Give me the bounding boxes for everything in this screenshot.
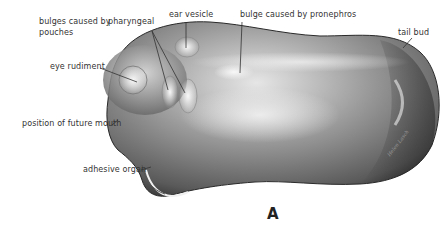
label-tail-bud: tail bud xyxy=(398,28,429,38)
label-future-mouth: position of future mouth xyxy=(22,119,122,129)
eye-rudiment xyxy=(119,66,147,94)
label-pouches: pouches xyxy=(39,28,73,38)
label-pharyngeal: pharyngeal xyxy=(108,17,154,27)
label-ear-vesicle: ear vesicle xyxy=(169,10,213,20)
pharyngeal-bulge-1 xyxy=(162,76,178,108)
panel-letter: A xyxy=(267,205,279,223)
label-bulge-pronephros: bulge caused by pronephros xyxy=(240,10,356,20)
label-adhesive-organ: adhesive organ xyxy=(83,165,146,175)
embryo-figure: bulges caused by pouches pharyngeal ear … xyxy=(0,0,447,237)
pronephros-bulge xyxy=(214,64,254,80)
label-eye-rudiment: eye rudiment xyxy=(50,62,105,72)
pharyngeal-bulge-2 xyxy=(179,79,197,113)
ear-vesicle xyxy=(175,37,199,57)
label-bulges-caused-by: bulges caused by xyxy=(39,17,111,27)
